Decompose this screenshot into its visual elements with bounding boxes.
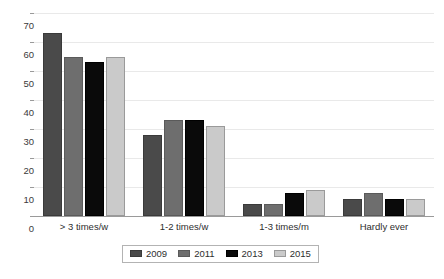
legend: 2009201120132015 — [122, 245, 319, 263]
bar[interactable] — [206, 126, 225, 216]
legend-swatch-icon — [274, 250, 286, 257]
bar-group — [34, 13, 134, 216]
bar-chart: 010203040506070 > 3 times/w1-2 times/w1-… — [0, 0, 444, 279]
bar-group-bars — [34, 13, 134, 216]
bar[interactable] — [106, 57, 125, 217]
bar[interactable] — [364, 193, 383, 216]
bar-group — [334, 13, 434, 216]
bar-group-bars — [334, 13, 434, 216]
plot-area — [34, 13, 434, 216]
y-axis-tick-label: 60 — [8, 50, 34, 60]
bar[interactable] — [343, 199, 362, 216]
x-axis-category-label: Hardly ever — [334, 218, 434, 236]
bar[interactable] — [85, 62, 104, 216]
legend-item[interactable]: 2015 — [274, 249, 311, 259]
y-axis-tick-label: 40 — [8, 108, 34, 118]
bar[interactable] — [306, 190, 325, 216]
x-axis-category-label: > 3 times/w — [34, 218, 134, 236]
bar-group-bars — [234, 13, 334, 216]
legend-item[interactable]: 2013 — [226, 249, 263, 259]
bar-groups — [34, 13, 434, 216]
bar[interactable] — [64, 57, 83, 217]
x-axis-category-labels: > 3 times/w1-2 times/w1-3 times/mHardly … — [34, 218, 434, 236]
legend-swatch-icon — [130, 250, 142, 257]
legend-label: 2011 — [194, 249, 214, 259]
bar[interactable] — [264, 204, 283, 216]
bar[interactable] — [185, 120, 204, 216]
y-axis: 010203040506070 — [0, 13, 34, 216]
y-axis-tick-label: 0 — [8, 224, 34, 234]
legend-label: 2015 — [290, 249, 311, 259]
legend-item[interactable]: 2009 — [130, 249, 167, 259]
bar[interactable] — [43, 33, 62, 216]
y-axis-tick-label: 70 — [8, 21, 34, 31]
bar[interactable] — [285, 193, 304, 216]
y-axis-tick-label: 20 — [8, 166, 34, 176]
bar[interactable] — [143, 135, 162, 216]
legend-swatch-icon — [226, 250, 238, 257]
axis-baseline — [34, 216, 434, 217]
y-axis-tick-label: 10 — [8, 195, 34, 205]
bar[interactable] — [243, 204, 262, 216]
bar-group — [234, 13, 334, 216]
bar[interactable] — [164, 120, 183, 216]
legend-label: 2009 — [146, 249, 167, 259]
y-axis-tick-label: 30 — [8, 137, 34, 147]
y-axis-tick-label: 50 — [8, 79, 34, 89]
bar[interactable] — [406, 199, 425, 216]
legend-swatch-icon — [178, 250, 190, 257]
legend-label: 2013 — [242, 249, 263, 259]
bar-group-bars — [134, 13, 234, 216]
x-axis-category-label: 1-3 times/m — [234, 218, 334, 236]
bar[interactable] — [385, 199, 404, 216]
x-axis-category-label: 1-2 times/w — [134, 218, 234, 236]
bar-group — [134, 13, 234, 216]
legend-item[interactable]: 2011 — [178, 249, 214, 259]
